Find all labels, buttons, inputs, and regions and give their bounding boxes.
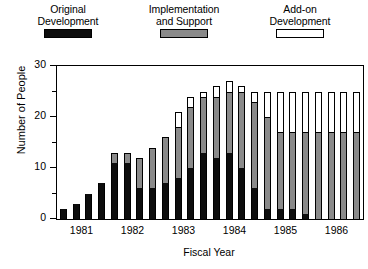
bar	[124, 153, 131, 219]
bar-segment	[315, 92, 322, 133]
bar-segment	[175, 112, 182, 127]
x-axis-label: Fiscal Year	[56, 246, 362, 258]
bar	[251, 92, 258, 219]
bar-segment	[277, 132, 284, 209]
bar-segment	[111, 163, 118, 219]
bar-segment	[136, 188, 143, 219]
bar-segment	[136, 158, 143, 189]
bar-segment	[175, 178, 182, 219]
bar-segment	[162, 137, 169, 183]
bar	[289, 92, 296, 219]
bar-segment	[111, 153, 118, 163]
bar	[328, 92, 335, 219]
bar-segment	[277, 92, 284, 133]
bar	[111, 153, 118, 219]
bar	[353, 92, 360, 219]
bar-segment	[226, 92, 233, 153]
bar	[60, 209, 67, 219]
bar-segment	[277, 209, 284, 219]
bar-segment	[251, 102, 258, 189]
bar	[238, 86, 245, 219]
bar-segment	[251, 188, 258, 219]
bar-segment	[213, 86, 220, 96]
bar-segment	[124, 153, 131, 163]
bar	[340, 92, 347, 219]
bar-segment	[302, 92, 309, 133]
bar-segment	[302, 214, 309, 219]
bar-segment	[98, 183, 105, 219]
bar	[226, 81, 233, 219]
bar-segment	[187, 97, 194, 107]
bar-segment	[302, 132, 309, 214]
bar	[98, 183, 105, 219]
bar-segment	[187, 168, 194, 219]
bar-segment	[289, 209, 296, 219]
bar-segment	[353, 132, 360, 219]
x-axis-tick-label: 1982	[111, 224, 155, 236]
bar-segment	[251, 92, 258, 102]
bar-segment	[213, 158, 220, 219]
x-axis-tick-label: 1986	[315, 224, 359, 236]
bar	[315, 92, 322, 219]
bar	[136, 158, 143, 219]
bar-segment	[187, 107, 194, 168]
plot-area	[56, 65, 364, 220]
bar-segment	[238, 168, 245, 219]
x-axis-tick-label: 1985	[264, 224, 308, 236]
bar-segment	[328, 132, 335, 219]
bar	[85, 194, 92, 220]
bar-group	[57, 66, 363, 219]
bar-segment	[149, 148, 156, 189]
bar	[73, 204, 80, 219]
bar-segment	[213, 97, 220, 158]
bar	[187, 97, 194, 219]
stacked-bar-chart: Number of People Fiscal Year 0102030 198…	[0, 0, 368, 269]
x-axis-tick-label: 1983	[162, 224, 206, 236]
bar-segment	[200, 153, 207, 219]
bar-segment	[85, 194, 92, 220]
bar-segment	[264, 117, 271, 209]
bar-segment	[226, 153, 233, 219]
bar-segment	[264, 92, 271, 118]
y-axis-tick-label: 30	[12, 58, 46, 70]
bar-segment	[162, 183, 169, 219]
bar	[277, 92, 284, 219]
bar-segment	[353, 92, 360, 133]
bar-segment	[200, 97, 207, 153]
bar-segment	[124, 163, 131, 219]
bar	[213, 86, 220, 219]
bar	[200, 92, 207, 219]
bar	[162, 137, 169, 219]
bar-segment	[175, 127, 182, 178]
bar-segment	[238, 92, 245, 169]
bar-segment	[340, 92, 347, 133]
bar-segment	[328, 92, 335, 133]
y-axis-tick-label: 0	[12, 211, 46, 223]
x-axis-tick-label: 1981	[60, 224, 104, 236]
bar-segment	[149, 188, 156, 219]
y-axis-tick-label: 10	[12, 160, 46, 172]
bar	[302, 92, 309, 219]
bar-segment	[289, 92, 296, 133]
bar-segment	[226, 81, 233, 91]
bar	[175, 112, 182, 219]
bar	[149, 148, 156, 219]
bar-segment	[264, 209, 271, 219]
bar-segment	[315, 132, 322, 219]
bar-segment	[60, 209, 67, 219]
x-axis-tick-label: 1984	[213, 224, 257, 236]
y-axis-tick-label: 20	[12, 109, 46, 121]
bar-segment	[73, 204, 80, 219]
bar-segment	[289, 132, 296, 209]
bar-segment	[340, 132, 347, 219]
bar	[264, 92, 271, 219]
